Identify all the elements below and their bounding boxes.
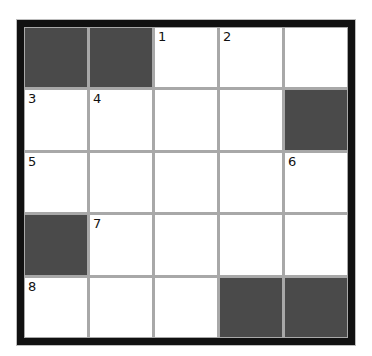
grid-cell[interactable]: 8: [25, 278, 87, 337]
crossword-frame: 1 2 3 4 5 6 7 8: [17, 20, 355, 345]
grid-cell[interactable]: [220, 215, 282, 274]
grid-cell[interactable]: [220, 153, 282, 212]
grid-cell[interactable]: 4: [90, 90, 152, 149]
block-cell: [25, 215, 87, 274]
clue-number: 2: [223, 30, 231, 43]
grid-cell[interactable]: [90, 153, 152, 212]
block-cell: [25, 28, 87, 87]
clue-number: 5: [28, 155, 36, 168]
grid-cell[interactable]: [155, 90, 217, 149]
clue-number: 6: [288, 155, 296, 168]
grid-cell[interactable]: 1: [155, 28, 217, 87]
grid-cell[interactable]: [155, 278, 217, 337]
clue-number: 4: [93, 92, 101, 105]
grid-cell[interactable]: [155, 153, 217, 212]
grid-cell[interactable]: 5: [25, 153, 87, 212]
clue-number: 1: [158, 30, 166, 43]
grid-cell[interactable]: [155, 215, 217, 274]
grid-cell[interactable]: 2: [220, 28, 282, 87]
clue-number: 7: [93, 217, 101, 230]
clue-number: 8: [28, 280, 36, 293]
block-cell: [220, 278, 282, 337]
block-cell: [90, 28, 152, 87]
crossword-grid: 1 2 3 4 5 6 7 8: [25, 28, 347, 337]
grid-cell[interactable]: 7: [90, 215, 152, 274]
grid-cell[interactable]: [285, 215, 347, 274]
grid-cell[interactable]: [285, 28, 347, 87]
grid-cell[interactable]: [90, 278, 152, 337]
block-cell: [285, 90, 347, 149]
grid-cell[interactable]: 6: [285, 153, 347, 212]
grid-cell[interactable]: 3: [25, 90, 87, 149]
grid-cell[interactable]: [220, 90, 282, 149]
clue-number: 3: [28, 92, 36, 105]
block-cell: [285, 278, 347, 337]
